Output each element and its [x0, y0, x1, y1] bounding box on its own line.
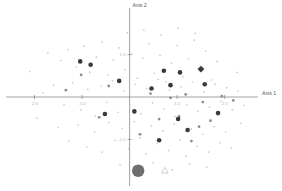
data-point: [95, 56, 97, 58]
data-point: [186, 104, 188, 106]
data-point: [194, 33, 196, 35]
data-point: [190, 140, 193, 143]
data-point: [132, 109, 137, 114]
data-point: [153, 162, 155, 164]
data-point: [60, 60, 62, 62]
data-point: [83, 45, 85, 47]
data-point: [158, 118, 161, 121]
data-point: [139, 133, 142, 136]
data-point: [151, 125, 153, 127]
data-point: [115, 139, 117, 141]
data-point: [153, 72, 155, 74]
data-point: [232, 99, 235, 102]
data-point: [157, 138, 162, 143]
data-point: [182, 76, 184, 78]
data-point: [178, 70, 183, 75]
data-point: [191, 128, 193, 130]
data-point: [159, 55, 161, 57]
data-point: [134, 121, 136, 123]
data-point: [216, 61, 218, 63]
data-point: [121, 128, 123, 130]
data-point: [171, 62, 173, 64]
plot-canvas: -2.0-1.01.02.01.0-1.0 Axis 1Axis 2: [0, 0, 282, 191]
data-point: [208, 151, 210, 153]
data-point: [134, 83, 136, 85]
data-point: [206, 167, 208, 169]
data-point: [231, 147, 233, 149]
data-point: [101, 41, 103, 43]
data-point: [80, 74, 83, 77]
data-point: [107, 74, 109, 76]
y-axis-title: Axis 2: [133, 2, 147, 8]
data-point: [165, 81, 167, 83]
data-point: [213, 126, 215, 128]
data-point: [87, 89, 89, 91]
series-emphasized-points: [78, 59, 220, 142]
y-tick-label: -1.0: [118, 137, 126, 142]
data-point-diamond: [198, 66, 205, 73]
data-point: [202, 82, 207, 87]
scatter-plot-figure: -2.0-1.01.02.01.0-1.0 Axis 1Axis 2: [0, 0, 282, 191]
data-point: [149, 92, 152, 95]
x-tick-label: 1.0: [174, 101, 180, 106]
data-point: [197, 111, 199, 113]
data-point: [225, 131, 227, 133]
data-point: [29, 71, 31, 73]
data-point: [216, 111, 221, 116]
data-point: [106, 101, 108, 103]
data-point: [139, 137, 141, 139]
data-point: [140, 113, 142, 115]
data-point: [80, 109, 82, 111]
data-point: [136, 78, 138, 80]
data-point: [119, 164, 121, 166]
x-axis-title: Axis 1: [262, 90, 276, 96]
data-point: [169, 89, 171, 91]
data-point: [65, 89, 68, 92]
axis-labels-group: Axis 1Axis 2: [133, 2, 277, 96]
data-point: [132, 165, 144, 177]
data-point-triangle: [162, 167, 168, 173]
data-point: [148, 43, 150, 45]
data-point: [126, 32, 128, 34]
data-point: [53, 84, 55, 86]
data-point: [152, 102, 154, 104]
y-tick-label: 1.0: [120, 52, 126, 57]
x-tick-label: 2.0: [222, 101, 228, 106]
data-point: [88, 62, 93, 67]
data-point: [168, 150, 170, 152]
data-point: [89, 72, 91, 74]
data-point: [67, 49, 69, 51]
data-point: [179, 139, 181, 141]
series-triangle-marker: [162, 167, 168, 173]
data-point: [163, 108, 165, 110]
data-point: [185, 155, 187, 157]
data-point: [146, 88, 148, 90]
series-large-circle-outlier: [132, 165, 144, 177]
series-mid-tone-points: [65, 74, 235, 143]
data-point: [180, 86, 182, 88]
data-point: [95, 115, 97, 117]
data-point: [203, 91, 205, 93]
data-point: [169, 96, 172, 99]
data-point: [86, 146, 88, 148]
data-point: [202, 133, 204, 135]
data-point: [77, 124, 79, 126]
data-point: [113, 59, 115, 61]
data-point: [177, 27, 179, 29]
data-point: [128, 148, 130, 150]
data-point: [209, 106, 211, 108]
data-point: [189, 163, 191, 165]
data-point: [211, 79, 213, 81]
data-point: [157, 78, 159, 80]
data-point: [131, 53, 133, 55]
data-point: [220, 95, 223, 98]
data-point: [124, 69, 126, 71]
data-point: [143, 29, 145, 31]
data-point: [156, 143, 158, 145]
data-point: [188, 58, 190, 60]
data-point: [176, 117, 181, 122]
data-point: [196, 145, 198, 147]
data-point: [198, 125, 201, 128]
data-point: [98, 116, 101, 119]
data-point: [76, 66, 78, 68]
